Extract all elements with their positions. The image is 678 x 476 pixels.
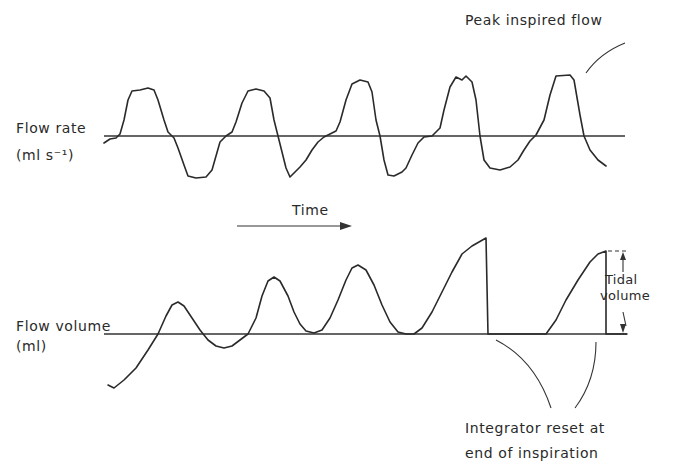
- peak-inspired-flow-label: Peak inspired flow: [465, 12, 603, 28]
- flow-volume-unit-label: (ml): [16, 338, 47, 354]
- flow-rate-trace: [104, 75, 606, 178]
- integrator-reset-leader-left: [496, 340, 551, 408]
- flow-rate-unit-label: (ml s⁻¹): [16, 147, 74, 163]
- peak-inspired-flow-leader-line: [586, 43, 625, 73]
- integrator-reset-label-line1: Integrator reset at: [465, 420, 605, 436]
- respiratory-waveform-diagram: [0, 0, 678, 476]
- tidal-volume-arrow-down-shaft: [623, 312, 626, 326]
- tidal-volume-arrow-down-icon: [620, 324, 626, 333]
- integrator-reset-label-line2: end of inspiration: [465, 445, 599, 461]
- tidal-volume-arrow-up-icon: [620, 252, 626, 260]
- tidal-volume-label-line1: Tidal: [605, 273, 637, 287]
- tidal-volume-label-line2: volume: [600, 289, 650, 303]
- flow-volume-trace: [108, 238, 627, 388]
- time-label: Time: [292, 202, 329, 218]
- flow-rate-label: Flow rate: [16, 120, 86, 136]
- flow-volume-label: Flow volume: [16, 318, 111, 334]
- time-arrow-head-icon: [340, 222, 352, 230]
- integrator-reset-leader-right: [575, 342, 596, 408]
